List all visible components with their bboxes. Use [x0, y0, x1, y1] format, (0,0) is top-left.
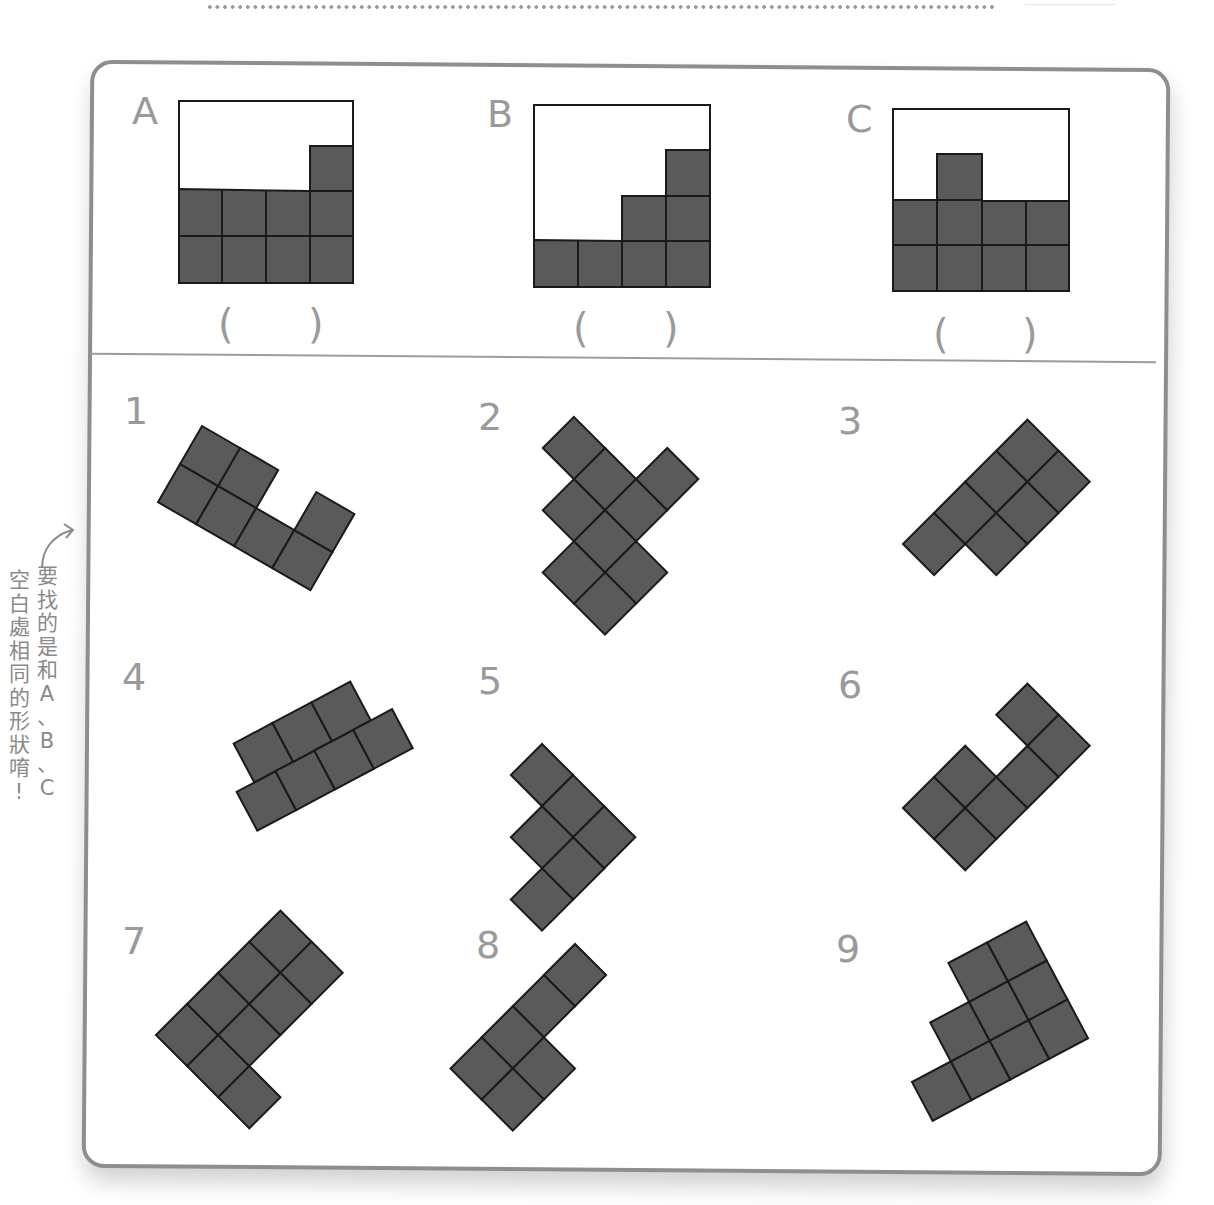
hint-char: 白 [6, 593, 32, 617]
option-label-7: 7 [122, 922, 146, 960]
option-label-8: 8 [476, 926, 500, 964]
option-label-9: 9 [836, 930, 860, 968]
option-figure-2[interactable] [505, 440, 735, 620]
hint-char: C [34, 777, 60, 801]
answer-open-paren-a: ( [218, 304, 234, 344]
hint-note: 要 找 的 是 和 A 、 B 、 C 空 白 處 相 同 的 形 狀 唷 ! [4, 565, 84, 825]
question-label-b: B [487, 95, 513, 133]
answer-input-c[interactable] [956, 310, 1018, 356]
hint-char: 唷 [6, 757, 32, 781]
dotted-line-decoration [206, 0, 996, 12]
option-label-2: 2 [478, 398, 502, 436]
option-figure-1[interactable] [150, 420, 360, 610]
hint-char: ! [6, 781, 32, 805]
answer-close-paren-c: ) [1022, 314, 1038, 354]
option-figure-6[interactable] [895, 682, 1095, 882]
hint-char: 空 [6, 569, 32, 593]
hint-char: 的 [34, 612, 60, 636]
option-figure-4[interactable] [192, 685, 382, 865]
hint-char: 狀 [6, 734, 32, 758]
option-label-1: 1 [124, 392, 148, 430]
hint-char: 要 [34, 565, 60, 589]
answer-close-paren-b: ) [663, 308, 679, 348]
hint-char: 的 [6, 687, 32, 711]
question-figure-a [178, 100, 356, 286]
hint-char: A [34, 683, 60, 707]
hint-char: 和 [34, 659, 60, 683]
hint-char: 形 [6, 710, 32, 734]
answer-input-a[interactable] [240, 300, 302, 346]
question-figure-c [892, 108, 1072, 294]
hint-line-2: 空 白 處 相 同 的 形 狀 唷 ! [6, 569, 32, 804]
hint-char: 相 [6, 640, 32, 664]
option-figure-9[interactable] [905, 920, 1100, 1145]
answer-close-paren-a: ) [308, 304, 324, 344]
option-figure-5[interactable] [505, 738, 705, 878]
option-figure-3[interactable] [895, 418, 1095, 588]
hint-char: 、 [34, 753, 60, 777]
hint-char: 處 [6, 616, 32, 640]
answer-open-paren-b: ( [573, 308, 589, 348]
option-label-6: 6 [838, 666, 862, 704]
option-label-5: 5 [478, 662, 502, 700]
option-label-3: 3 [838, 402, 862, 440]
hint-char: B [34, 730, 60, 754]
answer-input-b[interactable] [596, 304, 658, 350]
hint-char: 同 [6, 663, 32, 687]
hint-char: 找 [34, 589, 60, 613]
option-figure-8[interactable] [535, 940, 705, 1145]
question-figure-b [533, 104, 713, 290]
header-line-decoration [1025, 0, 1115, 5]
hint-char: 、 [34, 706, 60, 730]
question-label-c: C [846, 100, 873, 138]
hint-char: 是 [34, 636, 60, 660]
option-figure-7[interactable] [148, 905, 348, 1145]
answer-open-paren-c: ( [933, 314, 949, 354]
hint-line-1: 要 找 的 是 和 A 、 B 、 C [34, 565, 60, 800]
question-label-a: A [132, 92, 158, 130]
option-label-4: 4 [122, 658, 146, 696]
